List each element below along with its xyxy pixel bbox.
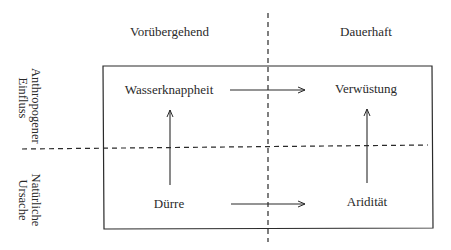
row-label-top: Anthropogener Einfluss [16, 68, 42, 128]
column-header-left: Vorübergehend [130, 24, 209, 40]
node-wasserknappheit: Wasserknappheit [125, 82, 213, 98]
row-label-bottom: Natürliche Ursache [16, 170, 42, 230]
row-label-top-line1: Anthropogener [29, 68, 42, 128]
node-verwuestung: Verwüstung [335, 81, 397, 97]
row-label-bottom-line1: Natürliche [29, 170, 42, 230]
node-ariditaet: Aridität [347, 194, 387, 210]
column-header-right: Dauerhaft [340, 24, 392, 40]
node-duerre: Dürre [154, 196, 184, 212]
row-label-top-line2: Einfluss [16, 68, 29, 128]
row-label-bottom-line2: Ursache [16, 170, 29, 230]
